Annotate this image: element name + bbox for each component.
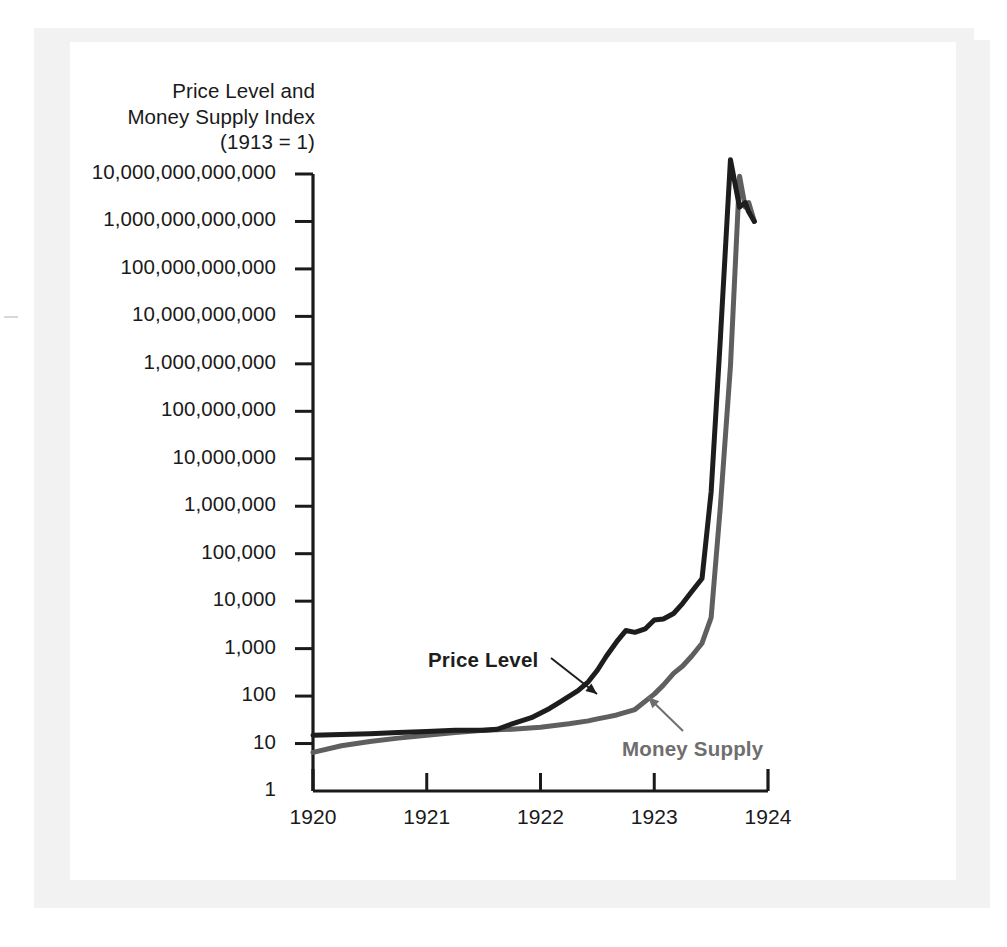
annotation-label-money-supply: Money Supply (622, 737, 763, 761)
y-axis-ticks (295, 174, 313, 744)
annotation-label-price-level: Price Level (428, 648, 538, 672)
plot-area (0, 0, 1007, 947)
axis-lines (313, 174, 768, 791)
x-axis-ticks (313, 769, 768, 791)
chart-figure: Price Level and Money Supply Index (1913… (0, 0, 1007, 947)
